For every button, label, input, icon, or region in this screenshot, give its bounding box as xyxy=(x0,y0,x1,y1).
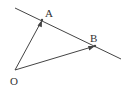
point-a xyxy=(41,19,43,21)
point-b xyxy=(94,45,96,47)
label-a: A xyxy=(45,7,53,19)
vector-diagram: A B O xyxy=(0,0,129,93)
line-ab xyxy=(15,8,121,59)
label-b: B xyxy=(90,32,97,44)
vector-ob xyxy=(15,47,93,70)
label-o: O xyxy=(10,75,18,87)
arrowhead-b xyxy=(88,46,95,50)
arrowhead-a xyxy=(38,20,43,27)
vector-oa xyxy=(15,22,41,70)
